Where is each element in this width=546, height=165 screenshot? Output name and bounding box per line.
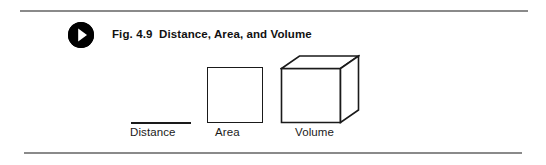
volume-cube-shape [280, 54, 360, 124]
area-square-shape [207, 67, 263, 123]
area-diagram [207, 67, 263, 123]
distance-label: Distance [130, 126, 176, 138]
area-label: Area [215, 126, 240, 138]
volume-diagram [280, 54, 360, 124]
bottom-divider-rule [24, 152, 522, 154]
figure-container: Fig. 4.9 Distance, Area, and Volume Dist… [0, 0, 546, 165]
volume-label: Volume [295, 126, 334, 138]
figure-title: Fig. 4.9 Distance, Area, and Volume [112, 28, 312, 40]
play-triangle-icon [68, 22, 94, 48]
distance-diagram [131, 66, 191, 124]
top-divider-rule [20, 10, 528, 12]
distance-line-shape [131, 122, 191, 124]
